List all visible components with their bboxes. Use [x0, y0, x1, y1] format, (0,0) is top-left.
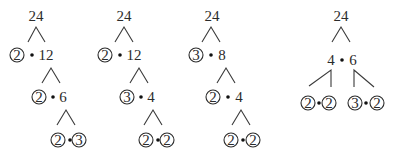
tree3-branch-2 — [217, 68, 235, 83]
tree1-level3: 2 3 — [51, 132, 86, 148]
tree4-rf-left: 3 — [351, 95, 359, 111]
tree2-l3-right: 2 — [163, 132, 171, 148]
tree3-l2-right: 4 — [235, 89, 243, 105]
tree1-root: 24 — [29, 8, 45, 24]
factor-tree-2: 24 2 12 3 4 2 2 — [98, 8, 174, 148]
multiplication-dot — [156, 138, 160, 142]
tree4-left-factors: 2 2 — [301, 95, 336, 111]
multiplication-dot — [139, 95, 143, 99]
tree3-branch-3 — [232, 110, 250, 125]
tree1-level2: 2 6 — [32, 89, 67, 105]
tree4-branch-root — [332, 27, 350, 42]
tree1-branch-2 — [42, 68, 60, 83]
tree1-l2-left: 2 — [35, 89, 43, 105]
tree3-level1: 3 8 — [189, 47, 226, 63]
multiplication-dot — [30, 53, 34, 57]
tree2-l1-left: 2 — [101, 47, 109, 63]
multiplication-dot — [51, 95, 55, 99]
tree1-l1-right: 12 — [39, 47, 54, 63]
tree2-branch-3 — [144, 110, 162, 125]
tree4-branch-right — [354, 70, 374, 87]
factor-trees-diagram: 24 2 12 2 6 2 3 24 2 — [0, 0, 401, 158]
multiplication-dot — [340, 58, 344, 62]
factor-tree-4: 24 4 6 2 2 3 2 — [301, 8, 384, 111]
factor-tree-3: 24 3 8 2 4 2 2 — [189, 8, 260, 148]
tree2-branch-2 — [130, 68, 148, 83]
tree2-level3: 2 2 — [139, 132, 174, 148]
tree4-lf-right: 2 — [325, 95, 333, 111]
tree4-split-right: 6 — [349, 52, 357, 68]
tree4-lf-left: 2 — [304, 95, 312, 111]
multiplication-dot — [317, 101, 321, 105]
tree1-level1: 2 12 — [10, 47, 54, 63]
tree3-branch-1 — [202, 27, 220, 42]
tree4-rf-right: 2 — [373, 95, 381, 111]
multiplication-dot — [226, 95, 230, 99]
multiplication-dot — [118, 53, 122, 57]
tree2-branch-1 — [115, 27, 133, 42]
tree3-l2-left: 2 — [209, 89, 217, 105]
tree1-branch-1 — [28, 27, 45, 42]
tree4-right-factors: 3 2 — [348, 95, 384, 111]
tree1-l3-right: 3 — [75, 132, 83, 148]
multiplication-dot — [241, 138, 245, 142]
tree2-l2-right: 4 — [147, 89, 155, 105]
tree1-l2-right: 6 — [59, 89, 67, 105]
tree2-root: 24 — [117, 8, 133, 24]
tree4-root: 24 — [334, 8, 350, 24]
tree2-level2: 3 4 — [120, 89, 155, 105]
tree1-branch-3 — [57, 110, 75, 125]
tree3-l3-left: 2 — [227, 132, 235, 148]
tree1-l3-left: 2 — [54, 132, 62, 148]
tree2-l2-left: 3 — [123, 89, 131, 105]
tree3-root: 24 — [205, 8, 221, 24]
multiplication-dot — [68, 138, 72, 142]
tree4-split-left: 4 — [327, 52, 335, 68]
tree4-branch-left — [309, 70, 331, 87]
multiplication-dot — [364, 101, 368, 105]
tree2-l3-left: 2 — [142, 132, 150, 148]
tree4-split: 4 6 — [327, 52, 357, 68]
factor-tree-1: 24 2 12 2 6 2 3 — [10, 8, 86, 148]
tree3-l1-right: 8 — [218, 47, 226, 63]
tree3-l1-left: 3 — [192, 47, 200, 63]
tree2-level1: 2 12 — [98, 47, 142, 63]
tree2-l1-right: 12 — [127, 47, 142, 63]
multiplication-dot — [209, 53, 213, 57]
tree3-level2: 2 4 — [206, 89, 243, 105]
tree1-l1-left: 2 — [13, 47, 21, 63]
tree3-l3-right: 2 — [249, 132, 257, 148]
tree3-level3: 2 2 — [224, 132, 260, 148]
